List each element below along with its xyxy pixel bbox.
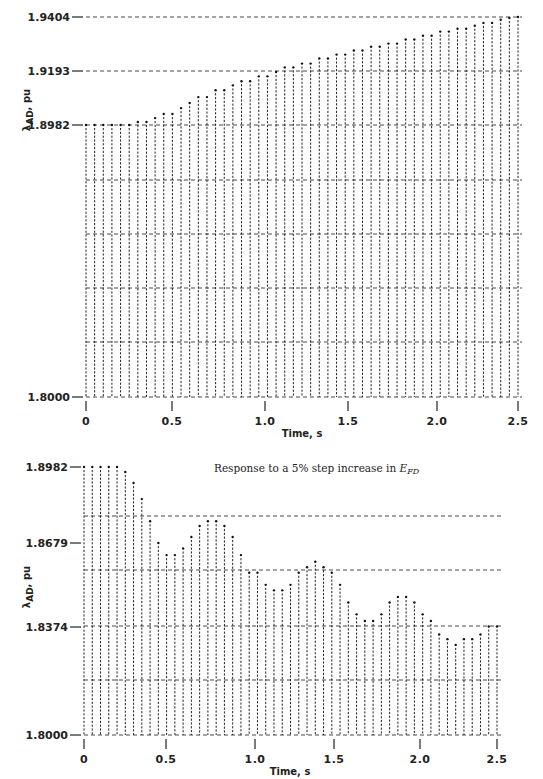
data-point — [456, 28, 458, 30]
data-point — [339, 584, 341, 586]
data-point — [372, 620, 374, 622]
y-tick-label: 1.8000 — [26, 729, 69, 742]
data-column — [309, 62, 311, 397]
data-point — [108, 466, 110, 468]
top-x-axis-label: Time, s — [282, 428, 323, 439]
top-chart: 1.94041.91931.89821.8000 00.51.01.52.02.… — [21, 11, 529, 439]
data-column — [448, 30, 450, 397]
bottom-annotation: Response to a 5% step increase in EFD — [214, 462, 420, 476]
data-point — [331, 572, 333, 574]
data-point — [223, 89, 225, 91]
data-column — [327, 57, 329, 397]
annotation-text: Response to a 5% step increase in — [214, 462, 400, 474]
data-point — [379, 45, 381, 47]
data-column — [145, 121, 147, 397]
data-column — [491, 22, 493, 397]
data-column — [301, 62, 303, 397]
data-column — [180, 107, 182, 397]
svg-text:λAD, pu: λAD, pu — [21, 566, 35, 608]
data-column — [93, 124, 95, 397]
data-point — [85, 124, 87, 126]
x-tick-label: 0 — [82, 415, 90, 428]
data-point — [157, 542, 159, 544]
data-point — [347, 601, 349, 603]
top-x-axis-ticks: 00.51.01.52.02.5 — [82, 401, 529, 428]
data-point — [396, 42, 398, 44]
data-point — [154, 117, 156, 119]
bottom-x-axis-ticks: 00.51.01.52.02.5 — [80, 739, 508, 766]
data-column — [396, 42, 398, 397]
data-column — [488, 625, 490, 735]
data-column — [471, 638, 473, 735]
data-column — [422, 34, 424, 397]
data-column — [240, 80, 242, 397]
data-column — [387, 42, 389, 397]
data-column — [404, 38, 406, 397]
data-column — [347, 601, 349, 735]
data-column — [116, 466, 118, 735]
data-point — [93, 124, 95, 126]
data-column — [163, 113, 165, 397]
data-column — [231, 536, 233, 735]
data-point — [289, 584, 291, 586]
data-point — [111, 124, 113, 126]
data-column — [91, 466, 93, 735]
data-point — [309, 62, 311, 64]
data-column — [119, 124, 121, 397]
data-column — [190, 536, 192, 735]
x-tick-label: 0.5 — [156, 753, 177, 766]
data-point — [361, 49, 363, 51]
data-point — [128, 124, 130, 126]
data-column — [128, 124, 130, 397]
data-column — [298, 572, 300, 735]
data-column — [206, 96, 208, 397]
data-column — [306, 566, 308, 735]
data-column — [256, 572, 258, 735]
data-column — [405, 596, 407, 735]
data-column — [198, 525, 200, 735]
data-column — [157, 542, 159, 735]
data-column — [397, 596, 399, 735]
data-point — [422, 34, 424, 36]
data-column — [463, 638, 465, 735]
data-point — [413, 38, 415, 40]
data-column — [292, 66, 294, 397]
top-ylabel-sub: AD — [25, 110, 35, 124]
svg-text:λAD, pu: λAD, pu — [21, 89, 35, 131]
data-point — [463, 638, 465, 640]
data-column — [413, 38, 415, 397]
data-column — [430, 620, 432, 735]
x-tick-label: 1.0 — [245, 753, 266, 766]
data-column — [344, 53, 346, 397]
data-point — [215, 520, 217, 522]
data-column — [508, 17, 510, 397]
data-point — [404, 38, 406, 40]
data-column — [322, 566, 324, 735]
data-point — [465, 28, 467, 30]
data-point — [281, 589, 283, 591]
data-point — [91, 466, 93, 468]
data-column — [289, 584, 291, 735]
data-point — [206, 96, 208, 98]
data-column — [430, 34, 432, 397]
bottom-y-axis-label: λAD, pu — [21, 566, 35, 608]
data-column — [188, 102, 190, 397]
data-point — [430, 34, 432, 36]
data-point — [265, 584, 267, 586]
x-tick-label: 2.5 — [487, 753, 508, 766]
data-point — [448, 30, 450, 32]
data-point — [137, 121, 139, 123]
data-point — [298, 572, 300, 574]
data-point — [364, 620, 366, 622]
bottom-chart: 1.89821.86791.83741.8000 00.51.01.52.02.… — [21, 461, 508, 777]
data-point — [318, 57, 320, 59]
data-column — [141, 498, 143, 735]
data-point — [370, 45, 372, 47]
data-point — [223, 525, 225, 527]
data-point — [397, 596, 399, 598]
data-point — [174, 554, 176, 556]
data-column — [361, 49, 363, 397]
y-tick-label: 1.8374 — [26, 621, 69, 634]
x-tick-label: 1.5 — [338, 415, 359, 428]
data-point — [188, 102, 190, 104]
